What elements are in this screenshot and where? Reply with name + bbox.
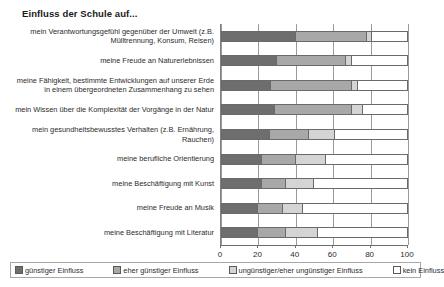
legend-item[interactable]: günstiger Einfluss	[15, 266, 83, 275]
category-label: mein Verantwortungsgefühl gegenüber der …	[14, 27, 214, 46]
x-tick	[257, 245, 258, 248]
legend-item[interactable]: eher günstiger Einfluss	[113, 266, 198, 275]
bar-segment	[221, 104, 275, 115]
bar-segment	[221, 31, 296, 42]
legend-swatch-icon	[113, 266, 121, 274]
gridline	[408, 24, 409, 245]
bar-segment	[270, 129, 309, 140]
bar-segment	[309, 129, 335, 140]
x-tick	[220, 245, 221, 248]
bar-segment	[335, 129, 408, 140]
chart-legend: günstiger Einflusseher günstiger Einflus…	[10, 262, 421, 278]
bar-segment	[286, 227, 318, 238]
bar-segment	[318, 227, 408, 238]
bar-segment	[221, 203, 258, 214]
bar-segment	[296, 154, 326, 165]
category-label: meine Freude an Naturerlebnissen	[14, 56, 214, 66]
bar-segment	[326, 154, 408, 165]
bar-segment	[275, 104, 352, 115]
category-label: meine berufliche Orientierung	[14, 154, 214, 164]
legend-swatch-icon	[15, 266, 23, 274]
x-tick-label: 40	[290, 250, 299, 259]
bar-segment	[283, 203, 304, 214]
category-label: meine Beschäftigung mit Literatur	[14, 228, 214, 238]
bar-segment	[262, 178, 286, 189]
bar-row	[221, 80, 408, 91]
bar-row	[221, 227, 408, 238]
bar-row	[221, 129, 408, 140]
x-tick-label: 80	[365, 250, 374, 259]
bar-segment	[277, 55, 346, 66]
category-label: meine Fähigkeit, bestimmte Entwicklungen…	[14, 76, 214, 95]
bar-segment	[258, 227, 286, 238]
x-tick	[332, 245, 333, 248]
plot-area	[220, 24, 409, 245]
legend-swatch-icon	[229, 266, 237, 274]
x-tick-label: 0	[218, 250, 222, 259]
category-label: mein gesundheitsbewusstes Verhalten (z.B…	[14, 125, 214, 144]
x-axis-line	[220, 245, 408, 246]
bar-row	[221, 31, 408, 42]
bar-segment	[303, 203, 408, 214]
legend-swatch-icon	[393, 266, 401, 274]
bar-segment	[352, 55, 408, 66]
bar-segment	[296, 31, 367, 42]
x-tick	[407, 245, 408, 248]
bar-segment	[258, 203, 282, 214]
legend-label: ungünstiger/eher ungünstiger Einfluss	[239, 266, 363, 275]
x-tick	[370, 245, 371, 248]
category-label: meine Beschäftigung mit Kunst	[14, 179, 214, 189]
bar-row	[221, 203, 408, 214]
bar-row	[221, 104, 408, 115]
bar-segment	[221, 129, 270, 140]
bar-segment	[314, 178, 408, 189]
legend-item[interactable]: kein Einfluss	[393, 266, 444, 275]
bar-segment	[221, 227, 258, 238]
category-label: mein Wissen über die Komplexität der Vor…	[14, 105, 214, 115]
bar-segment	[286, 178, 314, 189]
bar-segment	[221, 178, 262, 189]
x-tick-label: 100	[400, 250, 413, 259]
bar-segment	[358, 80, 408, 91]
bar-segment	[271, 80, 351, 91]
legend-label: kein Einfluss	[403, 266, 444, 275]
legend-label: eher günstiger Einfluss	[123, 266, 198, 275]
bar-segment	[262, 154, 296, 165]
bar-segment	[221, 80, 271, 91]
legend-item[interactable]: ungünstiger/eher ungünstiger Einfluss	[229, 266, 363, 275]
x-tick-label: 60	[328, 250, 337, 259]
bar-row	[221, 154, 408, 165]
chart-title: Einfluss der Schule auf...	[22, 8, 138, 19]
bar-segment	[352, 104, 363, 115]
category-label: meine Freude an Musik	[14, 203, 214, 213]
bar-segment	[363, 104, 408, 115]
legend-label: günstiger Einfluss	[25, 266, 83, 275]
bar-segment	[221, 55, 277, 66]
bar-row	[221, 55, 408, 66]
x-tick-label: 20	[253, 250, 262, 259]
bar-segment	[372, 31, 408, 42]
bar-row	[221, 178, 408, 189]
bar-segment	[221, 154, 262, 165]
x-tick	[295, 245, 296, 248]
